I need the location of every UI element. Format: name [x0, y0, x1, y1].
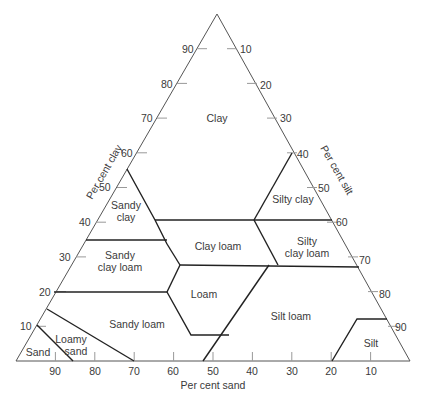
region-silty-clay: Silty clay	[272, 193, 314, 205]
region-sandy-clay: clay	[117, 211, 136, 223]
sand-axis-ticks	[55, 352, 370, 361]
svg-text:70: 70	[141, 112, 153, 124]
clay-axis-ticks	[36, 49, 207, 327]
region-clay-loam: Clay loam	[195, 240, 242, 252]
region-loamy-sand: sand	[65, 345, 88, 357]
svg-text:70: 70	[359, 254, 371, 266]
svg-text:20: 20	[260, 79, 272, 91]
svg-text:50: 50	[318, 182, 330, 194]
region-sandy-clay: Sandy	[111, 199, 142, 211]
svg-text:60: 60	[336, 216, 348, 228]
region-sand: Sand	[26, 346, 51, 358]
svg-text:40: 40	[246, 365, 258, 377]
sand-axis-title: Per cent sand	[181, 379, 246, 391]
region-sandy-loam: Sandy loam	[109, 318, 165, 330]
svg-text:90: 90	[395, 321, 407, 333]
svg-text:10: 10	[240, 43, 252, 55]
region-silt: Silt	[364, 337, 379, 349]
svg-text:40: 40	[79, 216, 91, 228]
region-silt-loam: Silt loam	[271, 310, 312, 322]
silt-axis-labels: 10 20 30 40 50 60 70 80 90	[240, 43, 407, 333]
soil-texture-triangle: 10 20 30 40 50 60 70 80 90 10 20 30 40 5…	[0, 0, 427, 405]
region-sandy-clay-loam: clay loam	[98, 261, 143, 273]
region-sandy-clay-loam: Sandy	[105, 249, 136, 261]
region-loamy-sand: Loamy	[55, 333, 87, 345]
svg-text:40: 40	[297, 148, 309, 160]
svg-text:30: 30	[59, 251, 71, 263]
svg-text:80: 80	[89, 365, 101, 377]
svg-text:90: 90	[182, 43, 194, 55]
svg-text:80: 80	[379, 288, 391, 300]
svg-text:10: 10	[365, 365, 377, 377]
svg-text:50: 50	[207, 365, 219, 377]
clay-axis-labels: 10 20 30 40 50 60 70 80 90	[20, 43, 194, 332]
svg-text:10: 10	[20, 320, 32, 332]
svg-text:80: 80	[161, 78, 173, 90]
sand-axis-labels: 90 80 70 60 50 40 30 20 10	[49, 365, 377, 377]
region-silty-clay-loam: clay loam	[285, 247, 330, 259]
svg-text:30: 30	[280, 112, 292, 124]
svg-text:20: 20	[325, 365, 337, 377]
region-silty-clay-loam: Silty	[297, 235, 318, 247]
svg-text:70: 70	[128, 365, 140, 377]
svg-text:30: 30	[286, 365, 298, 377]
region-loam: Loam	[191, 288, 218, 300]
region-clay: Clay	[206, 112, 228, 124]
svg-text:90: 90	[49, 365, 61, 377]
silt-axis-ticks	[227, 49, 398, 327]
svg-text:60: 60	[167, 365, 179, 377]
svg-text:20: 20	[39, 286, 51, 298]
